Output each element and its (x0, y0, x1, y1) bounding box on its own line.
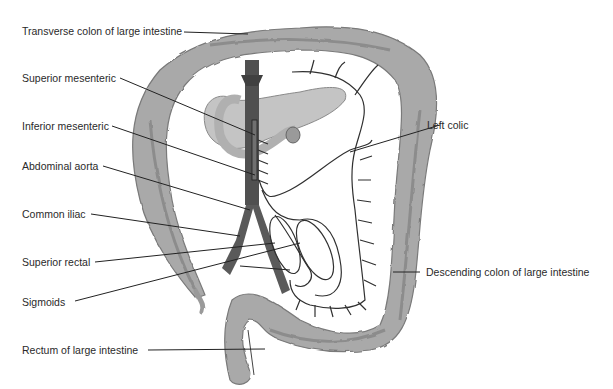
large-intestine (133, 27, 437, 384)
colon-body (133, 27, 437, 384)
label-rectum: Rectum of large intestine (22, 344, 138, 356)
label-abdominal-aorta: Abdominal aorta (22, 160, 98, 172)
common-iliac-right (222, 205, 254, 275)
label-common-iliac: Common iliac (22, 208, 86, 220)
pancreas (204, 87, 346, 154)
common-iliac-left (252, 205, 290, 294)
label-superior-mesenteric: Superior mesenteric (22, 72, 116, 84)
label-transverse-colon: Transverse colon of large intestine (22, 25, 182, 37)
label-superior-rectal: Superior rectal (22, 256, 90, 268)
label-sigmoids: Sigmoids (22, 296, 65, 308)
label-inferior-mesenteric: Inferior mesenteric (22, 120, 109, 132)
anatomy-illustration (0, 0, 613, 389)
label-left-colic: Left colic (427, 119, 468, 131)
label-descending-colon: Descending colon of large intestine (426, 266, 589, 278)
